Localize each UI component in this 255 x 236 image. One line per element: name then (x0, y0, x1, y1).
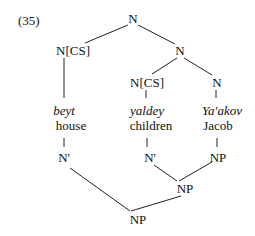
edge-np3-npmid (179, 162, 212, 181)
gloss-children: children (130, 119, 173, 133)
edge-npmid-nproot (131, 196, 181, 211)
gloss-house: house (56, 119, 86, 133)
node-n-mid: N (175, 44, 184, 58)
edge-root-nmid (138, 25, 175, 44)
node-np-root: NP (130, 213, 147, 227)
node-np-3: NP (210, 151, 227, 165)
node-n-cs-mid: N[CS] (130, 76, 164, 90)
word-yaakov: Ya'akov (202, 104, 242, 118)
edge-root-ncsleft (85, 25, 128, 43)
edge-nbar2-npmid (154, 165, 177, 181)
node-np-mid: NP (177, 182, 194, 196)
edge-nmid-ncsmid (152, 58, 177, 74)
node-n-right: N (212, 76, 221, 90)
word-beyt: beyt (53, 104, 75, 118)
edge-nbar1-nproot (70, 168, 130, 211)
node-root-n: N (128, 12, 137, 26)
node-nbar-2: N' (144, 151, 156, 165)
edge-nmid-nright (184, 58, 212, 75)
gloss-jacob: Jacob (203, 119, 233, 133)
node-nbar-1: N' (58, 151, 70, 165)
example-number: (35) (18, 14, 40, 28)
node-n-cs-left: N[CS] (56, 44, 90, 58)
word-yaldey: yaldey (130, 104, 164, 118)
